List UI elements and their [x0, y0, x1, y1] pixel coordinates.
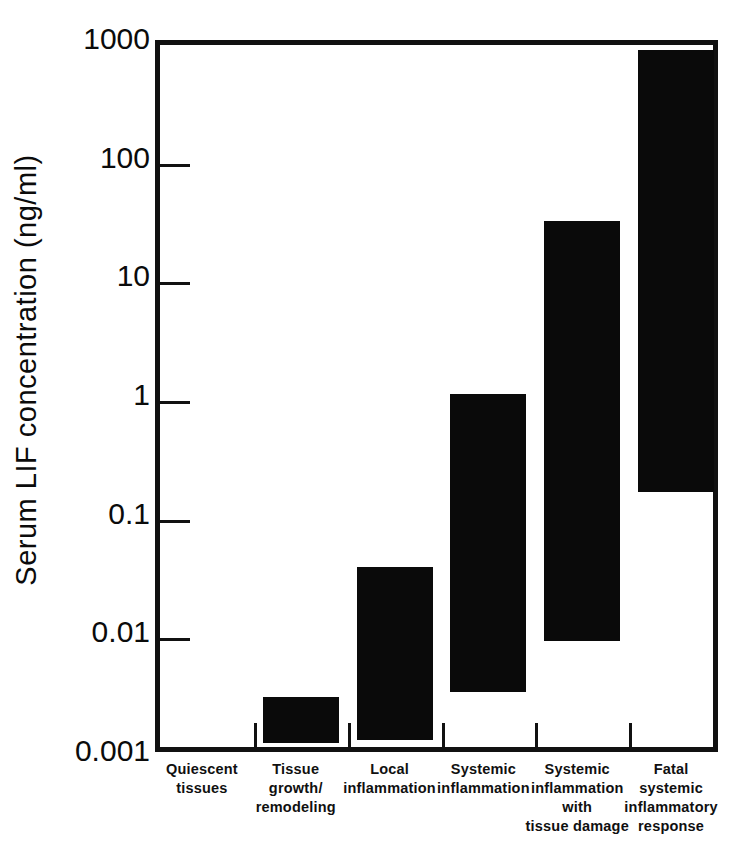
x-axis-category-label: Fatalsystemicinflammatoryresponse	[616, 760, 726, 836]
y-axis-tick	[160, 638, 190, 641]
x-axis-tick	[535, 723, 538, 747]
y-axis-tick-label: 1	[0, 380, 150, 410]
y-axis-tick-label: 0.1	[0, 499, 150, 529]
y-axis-tick-label: 0.001	[0, 736, 150, 766]
x-axis-tick	[442, 723, 445, 747]
y-axis-tick	[160, 282, 190, 285]
x-axis-tick	[348, 723, 351, 747]
plot-area	[155, 40, 718, 752]
y-axis-tick-label: 100	[0, 143, 150, 173]
x-axis-tick	[254, 723, 257, 747]
x-axis-category-line: response	[616, 817, 726, 836]
y-axis-tick-label: 1000	[0, 24, 150, 54]
bar	[450, 394, 526, 693]
x-axis-tick	[629, 723, 632, 747]
plot-inner	[160, 45, 713, 747]
figure-container: Serum LIF concentration (ng/ml) 10001001…	[0, 0, 747, 866]
y-axis-tick	[160, 164, 190, 167]
y-axis-tick	[160, 520, 190, 523]
y-axis-tick-label: 0.01	[0, 617, 150, 647]
x-axis-category-line: systemic	[616, 779, 726, 798]
bar	[638, 50, 714, 492]
y-axis-tick-label: 10	[0, 261, 150, 291]
bar	[544, 221, 620, 641]
y-axis-tick	[160, 401, 190, 404]
x-axis-category-line: Fatal	[616, 760, 726, 779]
x-axis-category-line: remodeling	[241, 798, 351, 817]
x-axis-category-labels: QuiescenttissuesTissuegrowth/remodelingL…	[155, 760, 718, 860]
x-axis-category-line: inflammatory	[616, 798, 726, 817]
bar	[357, 567, 433, 740]
bar	[263, 697, 339, 743]
